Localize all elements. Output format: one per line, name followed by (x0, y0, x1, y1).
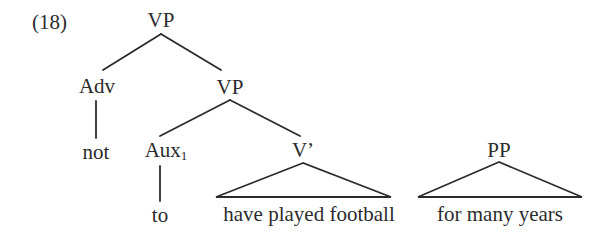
node-aux-subscript: 1 (181, 148, 188, 163)
example-number: (18) (32, 12, 67, 33)
branch-vp2-to-aux (160, 100, 230, 136)
vbar-triangle (216, 163, 391, 197)
node-vp: VP (217, 77, 244, 98)
node-vbar: V’ (292, 140, 314, 161)
leaf-have-played-football: have played football (223, 204, 394, 225)
leaf-not: not (83, 142, 110, 163)
node-aux: Aux1 (145, 140, 188, 162)
node-pp: PP (487, 140, 510, 161)
leaf-for-many-years: for many years (437, 204, 563, 225)
pp-triangle (418, 162, 582, 197)
leaf-to: to (152, 205, 168, 226)
node-adv: Adv (79, 76, 115, 97)
node-aux-label: Aux (145, 138, 181, 162)
branch-vp-to-vp (161, 34, 221, 70)
branch-vp2-to-vbar (230, 100, 300, 136)
branch-vp-to-adv (103, 34, 161, 70)
node-vp-root: VP (148, 10, 175, 31)
